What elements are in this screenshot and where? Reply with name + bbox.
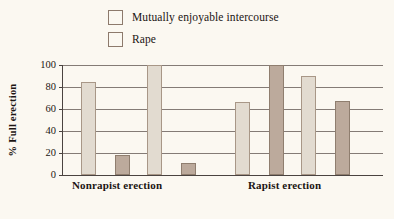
y-axis-title: % Full erection [7, 84, 18, 157]
legend-label-rape: Rape [132, 33, 156, 46]
bar-1 [115, 155, 130, 175]
bar-2 [147, 65, 162, 175]
y-tick-100 [59, 65, 63, 66]
legend-item-mutually-enjoyable-intercourse: Mutually enjoyable intercourse [108, 10, 279, 25]
bar-5 [269, 65, 284, 175]
bar-0 [81, 82, 96, 176]
y-tick-label-60: 60 [46, 104, 57, 115]
plot-area: 020406080100 [62, 65, 383, 176]
y-tick-80 [59, 87, 63, 88]
y-tick-label-0: 0 [51, 170, 56, 181]
x-axis-group-label-rapist-erection: Rapist erection [248, 179, 321, 191]
legend-label-mutually-enjoyable-intercourse: Mutually enjoyable intercourse [132, 11, 279, 24]
bar-4 [235, 102, 250, 175]
y-tick-label-40: 40 [46, 126, 57, 137]
legend-swatch-light-icon [108, 10, 123, 25]
bar-7 [335, 101, 350, 175]
y-tick-label-80: 80 [46, 82, 57, 93]
y-tick-20 [59, 153, 63, 154]
legend-swatch-dark-icon [108, 32, 123, 47]
y-tick-60 [59, 109, 63, 110]
y-tick-40 [59, 131, 63, 132]
chart-legend: Mutually enjoyable intercourse Rape [108, 10, 279, 47]
bar-chart-figure: Mutually enjoyable intercourse Rape % Fu… [0, 0, 394, 219]
bar-6 [301, 76, 316, 175]
bar-3 [181, 163, 196, 175]
gridline-100 [63, 65, 383, 66]
y-tick-label-20: 20 [46, 148, 57, 159]
gridline-80 [63, 87, 383, 88]
y-tick-0 [59, 175, 63, 176]
x-axis-group-label-nonrapist-erection: Nonrapist erection [72, 179, 162, 191]
y-tick-label-100: 100 [40, 60, 56, 71]
legend-item-rape: Rape [108, 32, 279, 47]
